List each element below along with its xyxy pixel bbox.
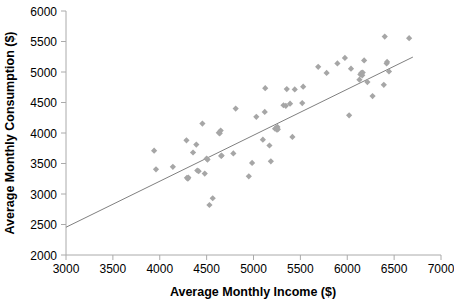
data-point — [284, 86, 290, 92]
trend-line-group — [66, 57, 413, 227]
x-axis-tick-labels: 300035004000450050005500600065007000 — [53, 262, 454, 276]
data-point — [299, 100, 305, 106]
data-point — [183, 137, 189, 143]
data-point — [253, 114, 259, 120]
data-point — [268, 158, 274, 164]
y-tick-label: 4500 — [30, 96, 57, 110]
scatter-chart: 200025003000350040004500500055006000 300… — [0, 0, 454, 303]
data-point — [190, 149, 196, 155]
x-tick-label: 3500 — [100, 262, 127, 276]
data-point — [210, 195, 216, 201]
data-point — [170, 164, 176, 170]
x-axis-title: Average Monthly Income ($) — [170, 285, 336, 299]
data-point — [199, 120, 205, 126]
data-point — [386, 68, 392, 74]
data-point — [219, 152, 225, 158]
data-point — [266, 142, 272, 148]
y-axis-title: Average Monthly Consumption ($) — [3, 31, 17, 234]
y-tick-label: 2500 — [30, 218, 57, 232]
y-tick-label: 3000 — [30, 188, 57, 202]
data-point — [342, 55, 348, 61]
y-tick-label: 3500 — [30, 157, 57, 171]
data-point — [193, 141, 199, 147]
y-tick-label: 4000 — [30, 127, 57, 141]
data-point — [260, 137, 266, 143]
data-point — [369, 93, 375, 99]
data-point — [361, 57, 367, 63]
y-axis-tick-labels: 200025003000350040004500500055006000 — [30, 5, 57, 263]
data-point — [324, 70, 330, 76]
data-point — [315, 64, 321, 70]
x-tick-label: 4000 — [146, 262, 173, 276]
x-tick-label: 3000 — [53, 262, 80, 276]
x-tick-label: 5500 — [287, 262, 314, 276]
x-tick-label: 6500 — [381, 262, 408, 276]
y-tick-label: 2000 — [30, 249, 57, 263]
data-point — [381, 82, 387, 88]
chart-canvas: 200025003000350040004500500055006000 300… — [0, 0, 454, 303]
data-point — [230, 150, 236, 156]
data-point — [153, 166, 159, 172]
data-point — [246, 173, 252, 179]
x-tick-label: 5000 — [240, 262, 267, 276]
data-point — [334, 60, 340, 66]
data-point — [233, 106, 239, 112]
regression-trend-line — [66, 57, 413, 227]
data-point — [249, 160, 255, 166]
data-point — [262, 109, 268, 115]
x-tick-label: 7000 — [428, 262, 454, 276]
y-tick-label: 5500 — [30, 35, 57, 49]
data-point — [262, 85, 268, 91]
data-point — [202, 170, 208, 176]
x-axis-ticks — [66, 255, 441, 260]
y-tick-label: 6000 — [30, 5, 57, 19]
y-tick-label: 5000 — [30, 66, 57, 80]
data-point — [406, 35, 412, 41]
data-point — [206, 202, 212, 208]
data-point — [346, 112, 352, 118]
data-point — [289, 134, 295, 140]
data-point — [151, 148, 157, 154]
data-point — [300, 84, 306, 90]
data-point — [292, 86, 298, 92]
data-point — [382, 34, 388, 40]
data-points-group — [151, 34, 412, 209]
x-tick-label: 6000 — [334, 262, 361, 276]
data-point — [348, 66, 354, 72]
x-tick-label: 4500 — [193, 262, 220, 276]
y-axis-ticks — [61, 11, 66, 255]
y-axis: 200025003000350040004500500055006000 — [30, 5, 66, 263]
x-axis: 300035004000450050005500600065007000 — [53, 255, 454, 276]
